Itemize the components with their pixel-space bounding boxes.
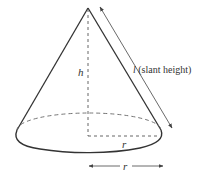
cone-diagram: h l (slant height) r r — [0, 0, 207, 177]
base-back-arc — [17, 113, 161, 130]
base-front-arc — [16, 130, 162, 153]
slant-text: (slant height) — [136, 64, 192, 76]
height-label: h — [78, 66, 84, 78]
slant-height-label: l (slant height) — [133, 64, 191, 76]
radius-label-inner: r — [122, 138, 127, 150]
radius-label-below: r — [123, 160, 128, 172]
